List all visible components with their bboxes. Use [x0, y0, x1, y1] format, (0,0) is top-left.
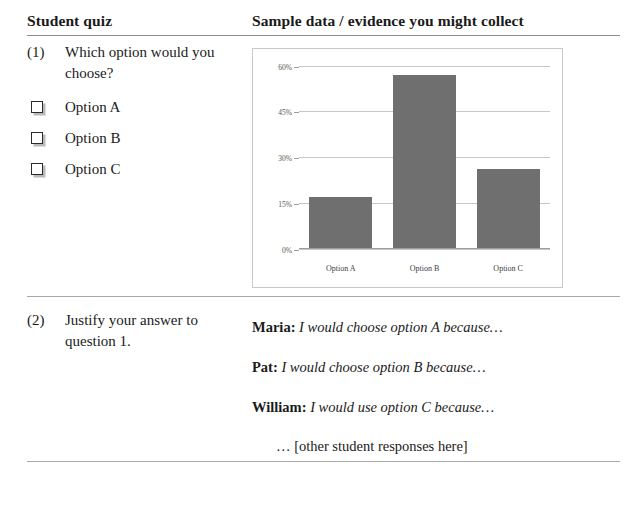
header-cell-sample-data: Sample data / evidence you might collect: [252, 12, 620, 31]
header-label-student-quiz: Student quiz: [27, 12, 252, 31]
question-1-line: (1) Which option would you choose?: [27, 42, 252, 86]
chart-y-tick-label: 15%: [278, 199, 292, 208]
chart-x-tick-label: Option A: [299, 264, 383, 273]
chart-y-tick-label: 45%: [278, 108, 292, 117]
chart-y-tick-label: 60%: [278, 62, 292, 71]
table-row: (1) Which option would you choose? Optio…: [27, 36, 620, 296]
student-responses-cell: Maria: I would choose option A because… …: [252, 304, 620, 461]
quiz-evidence-table: Student quiz Sample data / evidence you …: [27, 12, 620, 462]
option-row-c[interactable]: Option C: [27, 160, 252, 178]
chart-y-tick-label: 30%: [278, 154, 292, 163]
response-william: William: I would use option C because…: [252, 398, 620, 416]
chart-bar-column: [466, 66, 550, 249]
chart-gridline: 0%: [299, 249, 550, 250]
question-2-number: (2): [27, 310, 65, 332]
chart-y-tick-label: 0%: [282, 245, 292, 254]
question-1-cell: (1) Which option would you choose? Optio…: [27, 36, 252, 296]
response-name-pat: Pat:: [252, 359, 278, 375]
table-bottom-rule: [27, 461, 620, 462]
shadowed-square-checkbox-icon: [31, 163, 43, 175]
shadowed-square-checkbox-icon: [31, 132, 43, 144]
question-2-cell: (2) Justify your answer to question 1.: [27, 304, 252, 461]
response-more-placeholder: … [other student responses here]: [252, 438, 620, 455]
bar-chart: 0%15%30%45%60% Option AOption BOption C: [252, 48, 563, 288]
chart-x-tick-label: Option B: [383, 264, 467, 273]
response-text-maria: I would choose option A because…: [299, 319, 503, 335]
option-label-b: Option B: [65, 129, 252, 147]
chart-bar: [477, 169, 540, 248]
chart-bar: [309, 197, 372, 249]
chart-bars: [299, 66, 550, 249]
document-page: Student quiz Sample data / evidence you …: [0, 0, 631, 511]
chart-bar: [393, 75, 456, 249]
response-text-william: I would use option C because…: [310, 399, 494, 415]
question-2-text: Justify your answer to question 1.: [65, 310, 252, 354]
header-label-sample-data: Sample data / evidence you might collect: [252, 12, 620, 31]
response-pat: Pat: I would choose option B because…: [252, 358, 620, 376]
option-row-b[interactable]: Option B: [27, 129, 252, 147]
evidence-chart-cell: 0%15%30%45%60% Option AOption BOption C: [252, 36, 620, 296]
table-header-row: Student quiz Sample data / evidence you …: [27, 12, 620, 35]
question-2-line: (2) Justify your answer to question 1.: [27, 310, 252, 354]
checkbox-option-b[interactable]: [27, 129, 65, 147]
option-label-c: Option C: [65, 160, 252, 178]
response-maria: Maria: I would choose option A because…: [252, 318, 620, 336]
chart-x-axis-line: [299, 248, 550, 249]
table-row: (2) Justify your answer to question 1. M…: [27, 297, 620, 461]
question-1-text: Which option would you choose?: [65, 42, 252, 86]
shadowed-square-checkbox-icon: [31, 101, 43, 113]
header-cell-student-quiz: Student quiz: [27, 12, 252, 31]
option-row-a[interactable]: Option A: [27, 98, 252, 116]
chart-bar-column: [299, 66, 383, 249]
question-1-number: (1): [27, 42, 65, 64]
checkbox-option-a[interactable]: [27, 98, 65, 116]
chart-y-tickmark: [294, 250, 299, 251]
chart-bar-column: [383, 66, 467, 249]
response-text-pat: I would choose option B because…: [281, 359, 485, 375]
chart-x-tick-labels: Option AOption BOption C: [299, 264, 550, 273]
response-name-william: William:: [252, 399, 307, 415]
chart-plot-area: 0%15%30%45%60%: [299, 66, 550, 249]
chart-x-tick-label: Option C: [466, 264, 550, 273]
response-name-maria: Maria:: [252, 319, 295, 335]
checkbox-option-c[interactable]: [27, 160, 65, 178]
option-label-a: Option A: [65, 98, 252, 116]
